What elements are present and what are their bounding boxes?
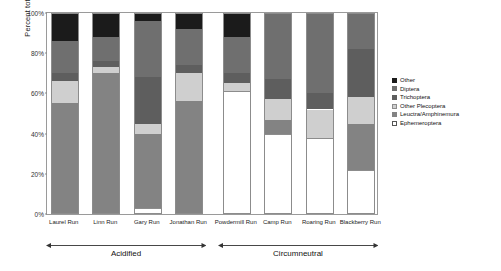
swatch-trichoptera-icon (392, 95, 397, 100)
group-range-arrow (218, 242, 379, 249)
segment-ephemeroptera (134, 208, 162, 214)
legend-item: Other Plecoptera (392, 102, 459, 111)
y-axis-tick-label: 100% (27, 10, 44, 17)
y-axis-tick-label: 0% (35, 211, 44, 218)
segment-trichoptera (134, 77, 162, 123)
bar-gary-run (134, 13, 162, 214)
x-axis-label: Blackberry Run (326, 219, 394, 225)
segment-diptera (134, 21, 162, 77)
legend-item: Leuctra/Amphinemura (392, 110, 459, 119)
legend-item: Ephemeroptera (392, 119, 459, 128)
bar-blackberry-run (347, 13, 375, 214)
segment-trichoptera (264, 79, 292, 99)
legend-item-label: Ephemeroptera (400, 119, 441, 128)
segment-other (51, 13, 79, 41)
segment-other (92, 13, 120, 37)
y-axis-tick-label: 80% (31, 50, 44, 57)
segment-leuctra-amphinemura (175, 101, 203, 214)
legend-item-label: Leuctra/Amphinemura (400, 110, 459, 119)
segment-ephemeroptera (223, 91, 251, 214)
segment-leuctra-amphinemura (92, 73, 120, 214)
segment-other-plecoptera (306, 110, 334, 138)
segment-diptera (347, 13, 375, 49)
bar-powdermill-run (223, 13, 251, 214)
segment-ephemeroptera (306, 138, 334, 214)
segment-trichoptera (51, 73, 79, 81)
legend-item-label: Other (400, 76, 415, 85)
swatch-other-icon (392, 78, 397, 83)
segment-trichoptera (92, 61, 120, 67)
swatch-diptera-icon (392, 86, 397, 91)
segment-diptera (92, 37, 120, 61)
segment-other-plecoptera (223, 83, 251, 91)
group-label: Acidified (46, 249, 207, 258)
segment-trichoptera (306, 93, 334, 109)
legend-item: Trichoptera (392, 93, 459, 102)
legend-item-label: Other Plecoptera (400, 102, 445, 111)
segment-leuctra-amphinemura (264, 120, 292, 134)
y-axis-tick-label: 40% (31, 130, 44, 137)
segment-diptera (51, 41, 79, 73)
segment-other (223, 13, 251, 37)
segment-diptera (175, 29, 203, 65)
segment-trichoptera (347, 49, 375, 97)
legend-item-label: Trichoptera (400, 93, 430, 102)
segment-leuctra-amphinemura (51, 103, 79, 214)
swatch-other-plecoptera-icon (392, 104, 397, 109)
bar-jonathan-run (175, 13, 203, 214)
segment-ephemeroptera (347, 170, 375, 214)
segment-other (134, 13, 162, 21)
segment-leuctra-amphinemura (347, 124, 375, 170)
segment-diptera (264, 13, 292, 79)
segment-other-plecoptera (175, 73, 203, 101)
segment-other-plecoptera (347, 97, 375, 123)
y-axis-tick-label: 60% (31, 90, 44, 97)
group-range-arrow (46, 242, 207, 249)
swatch-leuctra-amphinemura-icon (392, 112, 397, 117)
swatch-ephemeroptera-icon (392, 121, 397, 126)
bar-camp-run (264, 13, 292, 214)
segment-other-plecoptera (51, 81, 79, 103)
segment-other-plecoptera (264, 99, 292, 119)
group-bracket-acidified: Acidified (46, 242, 207, 262)
segment-trichoptera (175, 65, 203, 73)
legend: OtherDipteraTrichopteraOther PlecopteraL… (392, 76, 459, 128)
segment-diptera (306, 13, 334, 93)
segment-diptera (223, 37, 251, 73)
segment-other-plecoptera (92, 67, 120, 73)
group-label: Circumneutral (218, 249, 379, 258)
legend-item: Other (392, 76, 459, 85)
group-bracket-circumneutral: Circumneutral (218, 242, 379, 262)
bar-roaring-run (306, 13, 334, 214)
y-axis-tick-label: 20% (31, 170, 44, 177)
stacked-bar-chart-figure: Percent total 0%20%40%60%80%100% Laurel … (0, 0, 501, 271)
segment-trichoptera (223, 73, 251, 83)
segment-leuctra-amphinemura (134, 134, 162, 208)
segment-other-plecoptera (134, 124, 162, 134)
bar-linn-run (92, 13, 120, 214)
plot-area: Percent total 0%20%40%60%80%100% (46, 12, 378, 215)
segment-other (175, 13, 203, 29)
legend-item: Diptera (392, 85, 459, 94)
bar-laurel-run (51, 13, 79, 214)
bar-series-container (47, 13, 377, 214)
legend-item-label: Diptera (400, 85, 419, 94)
segment-ephemeroptera (264, 134, 292, 214)
